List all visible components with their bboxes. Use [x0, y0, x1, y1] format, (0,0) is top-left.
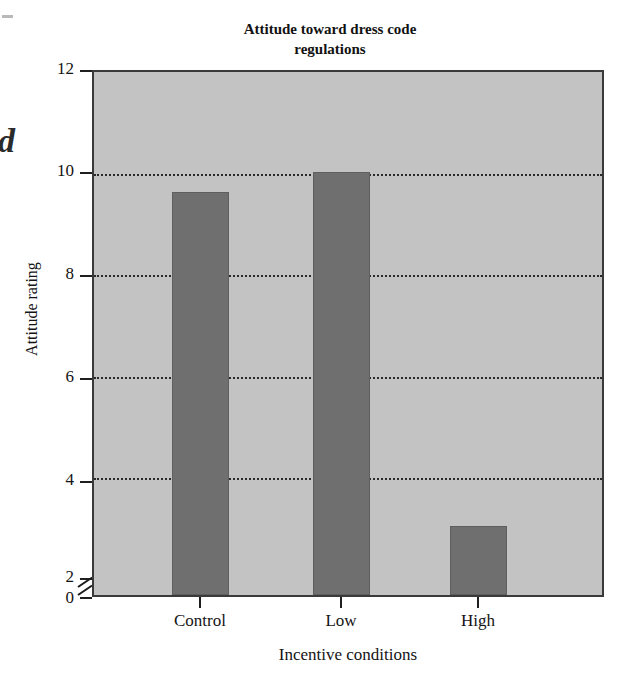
y-tick-label-4: 4 [40, 470, 74, 490]
chart-title-line-1: Attitude toward dress code [244, 21, 417, 37]
x-tick-control [199, 597, 201, 608]
y-tick-6 [80, 378, 92, 380]
bar-low[interactable] [313, 172, 370, 595]
y-tick-label-8: 8 [40, 264, 74, 284]
bar-high[interactable] [450, 526, 507, 595]
x-tick-label-high: High [418, 611, 538, 631]
page-bleed-letter: d [0, 124, 15, 158]
y-tick-label-0: 0 [40, 588, 74, 608]
page-bleed-dash [2, 15, 13, 18]
y-tick-10 [80, 172, 92, 174]
y-tick-label-12: 12 [40, 59, 74, 79]
chart-title-line-2: regulations [294, 41, 365, 57]
x-tick-high [477, 597, 479, 608]
bar-control[interactable] [172, 192, 229, 595]
x-axis-title: Incentive conditions [92, 645, 604, 665]
y-tick-8 [80, 275, 92, 277]
plot-inner [94, 72, 602, 595]
y-tick-4 [80, 481, 92, 483]
x-tick-label-low: Low [281, 611, 401, 631]
chart-title: Attitude toward dress code regulations [175, 20, 485, 60]
y-tick-label-2: 2 [40, 567, 74, 587]
x-tick-low [340, 597, 342, 608]
plot-area [92, 70, 604, 597]
y-tick-label-10: 10 [40, 161, 74, 181]
y-tick-12 [80, 70, 92, 72]
x-tick-label-control: Control [140, 611, 260, 631]
y-axis-title: Attitude rating [23, 239, 41, 379]
y-tick-label-6: 6 [40, 367, 74, 387]
